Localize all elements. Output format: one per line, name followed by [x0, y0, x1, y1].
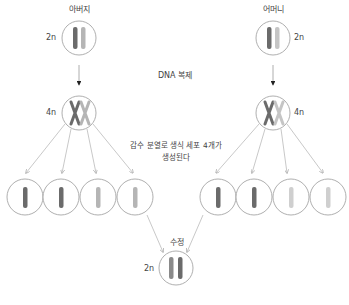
father-cell	[62, 21, 96, 55]
father-gametes	[7, 179, 153, 215]
fertilization-label: 수정	[170, 239, 184, 247]
fertilization-arrow-left	[147, 215, 163, 252]
mother-meiosis-arrows	[216, 124, 323, 173]
mother-cell	[256, 21, 290, 55]
meiosis-caption-line1: 감수 분열로 생식 세포 4개가	[130, 140, 221, 152]
father-ploidy-label: 2n	[46, 34, 56, 42]
father-meiosis-arrows	[26, 124, 133, 173]
mother-replicated-cell	[256, 96, 290, 130]
zygote-cell	[159, 251, 193, 285]
father-label: 아버지	[69, 6, 90, 14]
dna-replication-label: DNA 복제	[158, 72, 192, 80]
mother-gametes	[200, 179, 346, 215]
father-replicated-ploidy-label: 4n	[46, 109, 56, 117]
mother-label: 어머니	[263, 6, 284, 14]
father-replicated-cell	[62, 96, 96, 130]
mother-replicated-ploidy-label: 4n	[294, 109, 304, 117]
zygote-ploidy-label: 2n	[144, 265, 154, 273]
meiosis-caption-line2: 생성된다	[162, 152, 190, 164]
fertilization-arrow-right	[187, 215, 203, 252]
mother-ploidy-label: 2n	[294, 34, 304, 42]
